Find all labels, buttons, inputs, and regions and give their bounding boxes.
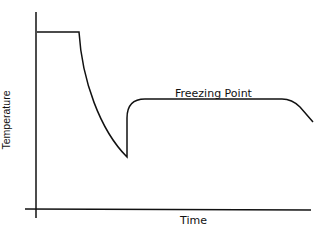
cooling-curve-diagram [0,0,328,243]
y-axis-label: Temperature [0,91,12,150]
freezing-point-annotation: Freezing Point [175,87,252,100]
x-axis-label: Time [180,214,207,227]
x-axis [25,209,311,210]
